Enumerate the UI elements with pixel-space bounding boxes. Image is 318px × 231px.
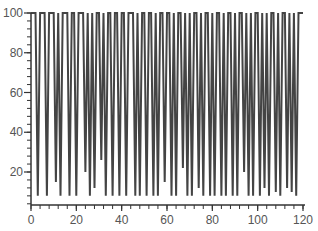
x-tick-label: 60 (160, 213, 174, 227)
y-major-ticks: 20406080100 (3, 6, 31, 179)
x-axis: 020406080100120 (28, 205, 314, 227)
x-tick-label: 120 (293, 213, 313, 227)
x-tick-label: 0 (28, 213, 35, 227)
x-tick-label: 80 (206, 213, 220, 227)
line-chart: 20406080100 020406080100120 (0, 0, 318, 231)
y-axis: 20406080100 (3, 6, 31, 205)
y-tick-label: 40 (10, 125, 24, 139)
y-tick-label: 80 (10, 46, 24, 60)
plot-area (31, 13, 303, 196)
data-line (31, 13, 303, 196)
y-tick-label: 20 (10, 165, 24, 179)
x-major-ticks: 020406080100120 (28, 205, 314, 227)
x-tick-label: 100 (248, 213, 268, 227)
y-tick-label: 100 (3, 6, 23, 20)
y-tick-label: 60 (10, 86, 24, 100)
x-tick-label: 20 (70, 213, 84, 227)
x-tick-label: 40 (115, 213, 129, 227)
